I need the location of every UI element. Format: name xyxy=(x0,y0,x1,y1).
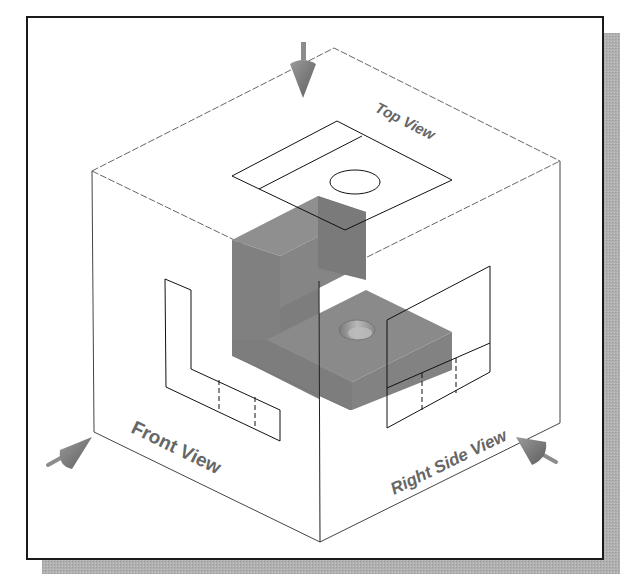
projection-diagram: Top View Front View Right Side View xyxy=(0,0,636,584)
top-view-hole-circle xyxy=(330,170,380,194)
